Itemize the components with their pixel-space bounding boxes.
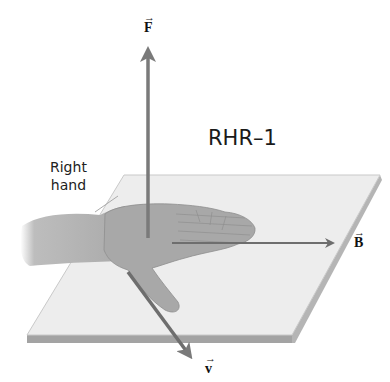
field-label: → B (354, 235, 363, 251)
diagram-title: RHR–1 (208, 126, 277, 150)
vector-arrow-icon: → (354, 226, 365, 238)
hand-label: Right hand (50, 158, 87, 194)
vector-arrow-icon: → (144, 11, 155, 23)
plane-edge-front (27, 335, 292, 343)
force-label: → F (144, 20, 153, 36)
vector-arrow-icon: → (205, 352, 216, 364)
velocity-label: → v (205, 361, 212, 377)
